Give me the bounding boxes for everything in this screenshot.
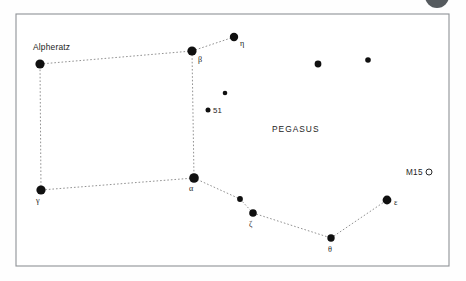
star-dot-unlabeled-upper-2 — [315, 61, 322, 68]
star-label-epsilon: ε — [394, 198, 398, 207]
star-label-eta: η — [240, 39, 244, 48]
star-label-51-pegasi: 51 — [213, 106, 222, 115]
star-dot-beta — [187, 46, 196, 55]
star-label-alpha: α — [189, 184, 194, 193]
star-dot-zeta — [249, 209, 257, 217]
star-label-gamma: γ — [35, 196, 40, 205]
star-chart-canvas: M15 Alpheratzβηαγζθε51 PEGASUS — [0, 0, 466, 281]
star-dot-unlabeled-upper-1 — [223, 91, 228, 96]
star-dot-unlabeled-upper-3 — [365, 57, 371, 63]
star-dot-51-pegasi — [206, 108, 211, 113]
dso-label-m15: M15 — [406, 168, 423, 177]
star-dot-alpheratz — [35, 59, 44, 68]
star-label-theta: θ — [328, 245, 332, 254]
constellation-name-label: PEGASUS — [272, 124, 320, 134]
star-dot-gamma — [36, 185, 45, 194]
chart-frame-border — [16, 14, 449, 266]
star-dot-alpha — [189, 173, 199, 183]
star-chart-figure: M15 Alpheratzβηαγζθε51 PEGASUS — [0, 0, 466, 281]
star-dot-unlabeled-lower-1 — [237, 196, 243, 202]
star-label-beta: β — [198, 55, 202, 64]
star-label-alpheratz: Alpheratz — [33, 42, 70, 52]
star-dot-eta — [230, 33, 238, 41]
star-dot-epsilon — [383, 196, 392, 205]
star-dot-theta — [327, 234, 334, 241]
